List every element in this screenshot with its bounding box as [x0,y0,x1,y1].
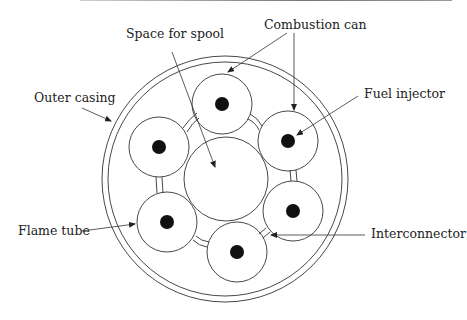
fuel-injector-dot [152,140,166,154]
combustion-can-top [192,74,252,134]
interconnectors [156,113,297,247]
spool-space [184,137,268,221]
label-space-for-spool: Space for spool [126,26,224,41]
fuel-injector-dot [230,245,244,259]
label-combustion-can: Combustion can [264,17,366,32]
label-flame-tube: Flame tube [18,223,90,238]
combustion-can-upper-left [129,117,189,177]
leader-space-for-spool [172,52,215,167]
combustion-can-lower-left [137,192,197,252]
fuel-injector-dot [286,204,300,218]
leader-fuel-injector [297,96,358,135]
label-outer-casing: Outer casing [34,90,116,105]
combustion-can-bottom [207,222,267,282]
combustion-can-lower-right [263,181,323,241]
combustion-can-upper-right [258,111,318,171]
leader-outer-casing [82,108,111,121]
label-interconnector: Interconnector [371,226,466,241]
fuel-injector-dot [160,215,174,229]
combustion-chamber-diagram: Space for spool Combustion can Outer cas… [0,0,467,320]
outer-casing [102,56,348,302]
fuel-injector-dot [281,134,295,148]
leader-flame-tube [82,224,135,231]
label-fuel-injector: Fuel injector [364,86,445,101]
fuel-injector-dot [215,97,229,111]
